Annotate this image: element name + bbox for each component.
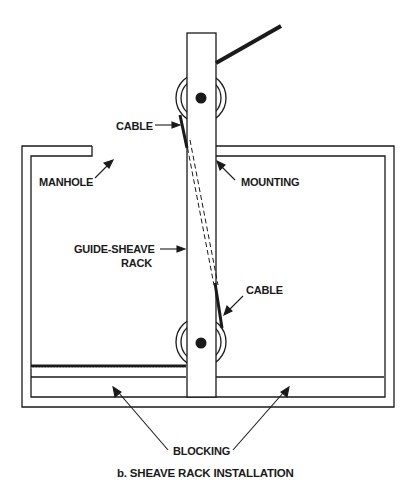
label-manhole: MANHOLE [39, 176, 93, 189]
label-rack: RACK [121, 257, 152, 270]
figure-caption: b. SHEAVE RACK INSTALLATION [117, 467, 294, 480]
top-cable [216, 26, 281, 63]
label-blocking: BLOCKING [173, 445, 230, 458]
sheave-rack-diagram [0, 0, 416, 487]
cable-upper-segment [180, 115, 187, 148]
label-cable-bottom: CABLE [246, 284, 283, 297]
label-guide-sheave: GUIDE-SHEAVE [74, 243, 155, 256]
label-mounting: MOUNTING [241, 176, 299, 189]
upper-axle [196, 93, 207, 104]
label-cable-top: CABLE [116, 120, 153, 133]
lower-axle [196, 338, 207, 349]
